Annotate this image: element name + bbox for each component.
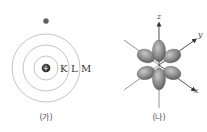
- y-axis-label: y: [197, 30, 203, 39]
- x-axis-label: x: [194, 86, 199, 95]
- shell-label-m: M: [81, 63, 91, 74]
- electron-dot: [43, 18, 48, 23]
- z-axis-label: z: [156, 12, 162, 21]
- lobe-bottom: [153, 68, 166, 90]
- orbital-model-panel: z y x (나): [124, 12, 203, 122]
- bohr-model-panel: + K L M (가): [12, 18, 91, 122]
- nucleus-sign: +: [43, 65, 49, 73]
- caption-ga: (가): [39, 113, 52, 122]
- shell-label-l: L: [71, 63, 78, 74]
- lobe-top: [153, 40, 166, 62]
- caption-na: (나): [152, 113, 165, 122]
- atom-models-figure: + K L M (가) z y x (나): [0, 0, 207, 132]
- shell-label-k: K: [60, 63, 68, 74]
